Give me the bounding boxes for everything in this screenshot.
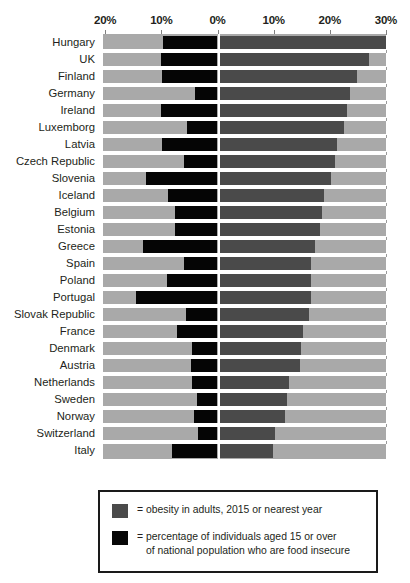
grid-tick [161, 288, 162, 291]
chart-legend: = obesity in adults, 2015 or nearest yea… [98, 490, 378, 573]
bar-obesity [220, 36, 386, 51]
grid-tick [274, 373, 275, 376]
bar-obesity [220, 155, 336, 170]
bar-obesity [220, 444, 273, 459]
bar-obesity [220, 87, 351, 102]
bar-obesity [220, 257, 312, 272]
grid-tick [274, 220, 275, 223]
country-label: Italy [0, 442, 95, 460]
bar-obesity [220, 376, 290, 391]
grid-tick [386, 50, 387, 53]
grid-tick [161, 407, 162, 410]
grid-tick [274, 271, 275, 274]
country-label: Portugal [0, 289, 95, 307]
bar-obesity [220, 138, 338, 153]
bar-food-insecure [162, 138, 217, 153]
bar-obesity [220, 427, 276, 442]
grid-tick [274, 441, 275, 444]
country-label: Iceland [0, 187, 95, 205]
axis-tick-label: 10% [150, 14, 172, 26]
grid-tick [330, 237, 331, 240]
chart-row [103, 136, 386, 154]
grid-tick [105, 254, 106, 257]
chart-row [103, 68, 386, 86]
grid-tick [330, 339, 331, 342]
grid-tick [274, 50, 275, 53]
grid-tick [386, 424, 387, 427]
grid-tick [161, 390, 162, 393]
country-label: Switzerland [0, 425, 95, 443]
grid-tick [161, 339, 162, 342]
grid-tick [161, 424, 162, 427]
country-label: Czech Republic [0, 153, 95, 171]
category-axis-labels: HungaryUKFinlandGermanyIrelandLuxemborgL… [0, 34, 99, 459]
grid-tick [330, 356, 331, 359]
grid-tick [105, 118, 106, 121]
grid-tick [274, 390, 275, 393]
country-label: Poland [0, 272, 95, 290]
bar-food-insecure [161, 53, 217, 68]
grid-tick [386, 390, 387, 393]
bar-obesity [220, 223, 320, 238]
country-label: Netherlands [0, 374, 95, 392]
grid-tick [105, 390, 106, 393]
grid-tick [330, 424, 331, 427]
grid-tick [105, 271, 106, 274]
bar-food-insecure [146, 172, 218, 187]
grid-tick [330, 67, 331, 70]
grid-tick [274, 237, 275, 240]
grid-tick [330, 152, 331, 155]
grid-tick [161, 322, 162, 325]
grid-tick [330, 203, 331, 206]
bar-food-insecure [168, 189, 217, 204]
bar-obesity [220, 308, 310, 323]
x-axis: 20%10%0%10%20%30% [103, 14, 386, 34]
bar-food-insecure [191, 359, 217, 374]
grid-tick [161, 118, 162, 121]
grid-tick [105, 67, 106, 70]
grid-tick [105, 84, 106, 87]
grid-tick [161, 373, 162, 376]
grid-tick [161, 67, 162, 70]
grid-tick [105, 203, 106, 206]
country-label: Austria [0, 357, 95, 375]
chart-row [103, 187, 386, 205]
bar-food-insecure [198, 427, 218, 442]
grid-tick [161, 186, 162, 189]
legend-swatch-obesity-icon [112, 504, 128, 518]
grid-tick [105, 186, 106, 189]
grid-tick [386, 135, 387, 138]
grid-tick [386, 186, 387, 189]
grid-tick [330, 390, 331, 393]
chart-row [103, 442, 386, 460]
bar-food-insecure [192, 376, 218, 391]
grid-tick [105, 322, 106, 325]
legend-label-obesity: = obesity in adults, 2015 or nearest yea… [137, 503, 322, 517]
bar-food-insecure [163, 36, 217, 51]
bar-obesity [220, 240, 315, 255]
grid-tick [386, 288, 387, 291]
grid-tick [330, 441, 331, 444]
grid-tick [386, 322, 387, 325]
grid-tick [161, 441, 162, 444]
bar-food-insecure [161, 104, 217, 119]
grid-tick [105, 169, 106, 172]
grid-tick [274, 356, 275, 359]
legend-label-food-insecure-line2: of national population who are food inse… [137, 544, 350, 558]
bar-food-insecure [143, 240, 217, 255]
grid-tick [330, 288, 331, 291]
chart-row [103, 391, 386, 409]
bar-food-insecure [184, 155, 218, 170]
country-label: Finland [0, 68, 95, 86]
grid-tick [274, 407, 275, 410]
grid-tick [105, 305, 106, 308]
grid-tick [161, 254, 162, 257]
country-label: Slovenia [0, 170, 95, 188]
grid-tick [386, 254, 387, 257]
grid-tick [105, 135, 106, 138]
grid-tick [330, 118, 331, 121]
grid-tick [274, 152, 275, 155]
grid-tick [386, 373, 387, 376]
bar-food-insecure [136, 291, 217, 306]
grid-tick [330, 135, 331, 138]
